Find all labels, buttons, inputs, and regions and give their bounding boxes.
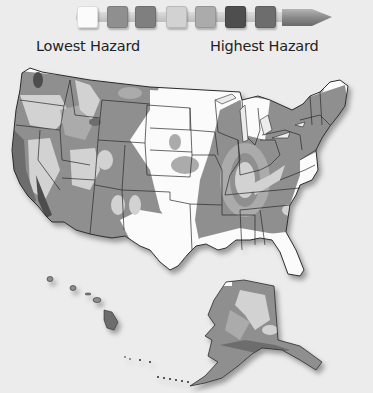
legend-swatch-6	[225, 6, 246, 28]
legend-swatch-5	[195, 6, 216, 28]
alaska	[124, 275, 330, 390]
legend-arrow-icon	[282, 5, 334, 31]
legend-low-label: Lowest Hazard	[36, 38, 140, 54]
hazard-legend: Lowest Hazard Highest Hazard	[0, 0, 373, 60]
legend-color-scale	[72, 3, 334, 33]
legend-swatch-2	[107, 6, 128, 28]
legend-swatch-1	[77, 6, 98, 28]
legend-high-label: Highest Hazard	[210, 38, 319, 54]
legend-swatch-4	[166, 6, 187, 28]
legend-swatch-7	[255, 6, 276, 28]
legend-swatch-3	[135, 6, 156, 28]
hawaii	[47, 277, 118, 331]
hazard-map	[0, 58, 373, 393]
contiguous-us	[0, 60, 373, 290]
